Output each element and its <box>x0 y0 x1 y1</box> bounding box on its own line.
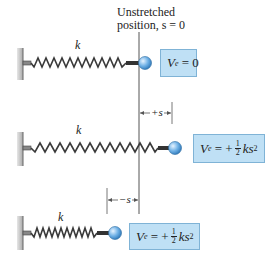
ball-icon <box>139 57 152 70</box>
spring-coil-icon <box>31 228 97 237</box>
ball-icon <box>109 227 122 240</box>
spring-coil-icon <box>31 58 126 67</box>
title-line-2: position, s = 0 <box>117 19 185 32</box>
fraction-denominator: 2 <box>236 149 240 157</box>
one-half-fraction: 12 <box>235 140 241 157</box>
displacement-label-negative: −s <box>118 194 132 205</box>
energy-box-stretched: Ve = + 12 ks2 <box>193 134 265 163</box>
energy-symbol: V <box>136 229 144 245</box>
spring-constant-label: k <box>75 39 80 52</box>
energy-value: = 0 <box>182 55 199 71</box>
energy-subscript: e <box>208 144 212 153</box>
fraction-numerator: 1 <box>172 228 176 236</box>
energy-subscript: e <box>175 59 179 68</box>
wall-mount-icon <box>17 216 23 250</box>
energy-ks: ks <box>243 141 254 157</box>
spring-assembly-unstretched <box>17 48 152 80</box>
energy-equals: = + <box>151 229 169 245</box>
energy-ks: ks <box>179 229 190 245</box>
energy-equals: = + <box>215 141 233 157</box>
wall-mount-icon <box>17 48 23 80</box>
spring-potential-energy-diagram: Unstretched position, s = 0 k k k +s −s … <box>0 0 277 268</box>
fraction-numerator: 1 <box>236 140 240 148</box>
wall-mount-icon <box>17 132 23 166</box>
energy-symbol: V <box>200 141 208 157</box>
displacement-label-positive: +s <box>150 107 164 118</box>
spring-constant-label: k <box>58 211 63 224</box>
energy-exponent: 2 <box>254 144 258 153</box>
energy-box-compressed: Ve = + 12 ks2 <box>129 223 200 250</box>
fraction-denominator: 2 <box>172 237 176 245</box>
energy-exponent: 2 <box>190 232 194 241</box>
energy-box-unstretched: Ve = 0 <box>160 49 197 77</box>
energy-symbol: V <box>167 55 175 71</box>
ball-icon <box>169 142 182 155</box>
energy-subscript: e <box>144 232 148 241</box>
unstretched-position-label: Unstretched position, s = 0 <box>117 6 185 32</box>
one-half-fraction: 12 <box>171 228 177 245</box>
spring-constant-label: k <box>76 124 81 137</box>
